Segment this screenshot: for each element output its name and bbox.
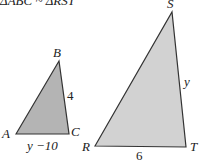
side-bc-label: 4 bbox=[67, 89, 74, 102]
vertex-label-c: C bbox=[71, 125, 80, 138]
side-rt-label: 6 bbox=[136, 149, 143, 161]
triangle-rst bbox=[95, 12, 186, 147]
vertex-label-a: A bbox=[2, 127, 10, 140]
vertex-label-t: T bbox=[190, 140, 197, 153]
vertex-label-s: S bbox=[167, 0, 174, 10]
vertex-label-r: R bbox=[82, 140, 90, 153]
side-ac-label: y −10 bbox=[27, 139, 58, 152]
similar-triangles-diagram: ΔABC ~ ΔRST A B C 4 y −10 R S T y 6 bbox=[0, 0, 201, 161]
triangles-figure bbox=[0, 0, 201, 161]
side-st-label: y bbox=[184, 75, 190, 88]
triangle-abc bbox=[16, 61, 69, 134]
vertex-label-b: B bbox=[53, 46, 61, 59]
